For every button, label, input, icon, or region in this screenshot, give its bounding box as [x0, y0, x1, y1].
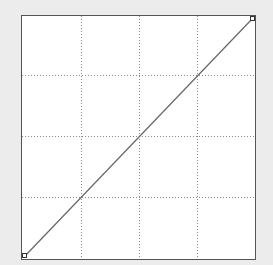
curve-point-handle-white[interactable] [250, 16, 255, 21]
tone-curve-line[interactable] [24, 18, 253, 257]
curve-canvas[interactable] [22, 16, 255, 259]
curve-point-handle-black[interactable] [22, 253, 27, 258]
curves-graph[interactable] [21, 15, 256, 260]
